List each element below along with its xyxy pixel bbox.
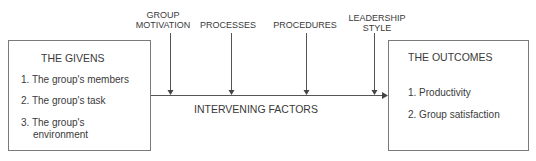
givens-item-2: 2. The group's task — [21, 95, 106, 107]
givens-item-3-cont: environment — [33, 129, 88, 141]
factor-label-line2: PROCESSES — [200, 20, 256, 30]
factor-processes: PROCESSES — [200, 20, 256, 30]
outcomes-title: THE OUTCOMES — [408, 51, 493, 63]
factor-leadership-style: LEADERSHIP STYLE — [348, 13, 405, 33]
factor-label-line2: MOTIVATION — [136, 20, 191, 30]
factor-label-line1: GROUP — [136, 10, 191, 20]
factor-label-line1: LEADERSHIP — [348, 13, 405, 23]
givens-title: THE GIVENS — [41, 52, 105, 64]
factor-label-line2: PROCEDURES — [273, 20, 337, 30]
factor-label-line2: STYLE — [348, 23, 405, 33]
intervening-factors-label: INTERVENING FACTORS — [194, 103, 318, 115]
factor-procedures: PROCEDURES — [273, 20, 337, 30]
factor-group-motivation: GROUP MOTIVATION — [136, 10, 191, 30]
givens-item-3: 3. The group's — [21, 117, 84, 129]
givens-item-1: 1. The group's members — [21, 74, 129, 86]
outcomes-item-2: 2. Group satisfaction — [408, 109, 500, 121]
outcomes-item-1: 1. Productivity — [408, 87, 471, 99]
